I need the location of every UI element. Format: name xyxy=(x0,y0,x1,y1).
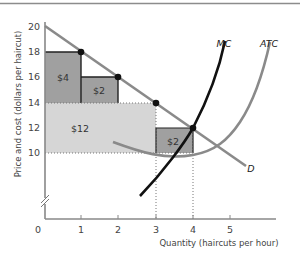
y-tick-label: 14 xyxy=(28,97,40,108)
point-q3 xyxy=(153,100,160,107)
y-tick-label: 16 xyxy=(28,71,40,82)
y-axis-title: Price and cost (dollars per haircut) xyxy=(13,31,23,178)
x-tick-label: 3 xyxy=(153,224,159,235)
y-tick-label: 18 xyxy=(28,46,40,57)
x-tick-label: 5 xyxy=(227,224,233,235)
x-tick-label: 4 xyxy=(190,224,196,235)
point-q1 xyxy=(78,49,85,56)
atc-label: ATC xyxy=(259,38,279,49)
y-tick-label: 10 xyxy=(28,147,40,158)
x-tick-label: 1 xyxy=(78,224,84,235)
area-2a-label: $2 xyxy=(93,85,105,96)
y-tick-label: 20 xyxy=(28,21,40,32)
area-12-label: $12 xyxy=(71,123,89,134)
mc-label: MC xyxy=(217,38,232,49)
point-q2 xyxy=(115,74,122,81)
x-tick-label: 2 xyxy=(115,224,121,235)
x-axis-title: Quantity (haircuts per hour) xyxy=(159,238,278,248)
point-q4 xyxy=(190,125,197,132)
area-2b-label: $2 xyxy=(167,136,179,147)
chart: 0 1 2 3 4 5 20 18 16 14 12 10 $4 $2 $12 … xyxy=(0,0,306,256)
x-tick-label-origin: 0 xyxy=(35,224,41,235)
y-tick-label: 12 xyxy=(28,122,40,133)
area-12 xyxy=(45,103,156,153)
d-label: D xyxy=(247,163,254,174)
area-4-label: $4 xyxy=(57,72,69,83)
